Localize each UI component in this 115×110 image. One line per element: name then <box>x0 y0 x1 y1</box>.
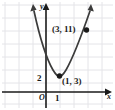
x-axis-name-label: x <box>107 93 111 101</box>
point-label-1-3: (1, 3) <box>62 77 82 86</box>
point-label-3-11: (3, 11) <box>52 25 76 34</box>
parabola-graph-figure: (3, 11) (1, 3) 2 O 1 y x <box>0 0 115 110</box>
origin-label: O <box>39 94 45 102</box>
x-axis-tick-label-1: 1 <box>55 94 60 103</box>
y-axis-name-label: y <box>40 3 44 11</box>
parabola-curve <box>30 4 94 77</box>
y-axis-tick-label-2: 2 <box>37 74 42 83</box>
point-marker-3-11 <box>84 27 89 32</box>
